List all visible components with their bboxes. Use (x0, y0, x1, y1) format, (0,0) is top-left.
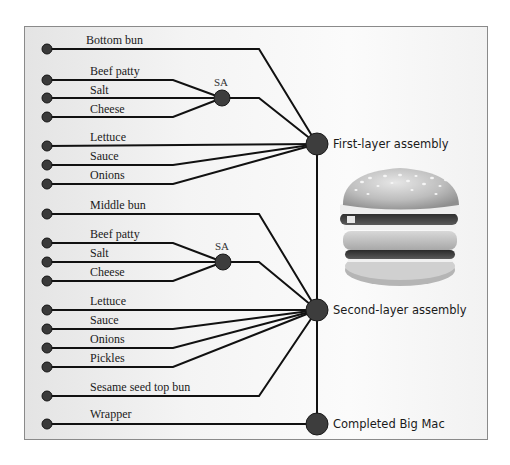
label-completed-big-mac: Completed Big Mac (333, 417, 445, 431)
label-beef-patty-1: Beef patty (90, 64, 140, 78)
label-pickles: Pickles (90, 351, 125, 365)
label-sesame-top-bun: Sesame seed top bun (90, 380, 190, 394)
input-dot-onions-1 (42, 179, 52, 189)
input-dot-sesame-top-bun (42, 391, 52, 401)
wire-beef-patty-2 (47, 243, 223, 262)
input-dot-pickles (42, 362, 52, 372)
input-dots (42, 44, 52, 429)
label-second-layer-assembly: Second-layer assembly (333, 303, 467, 317)
first-layer-wires (47, 49, 317, 184)
input-dot-lettuce-2 (42, 305, 52, 315)
input-dot-lettuce-1 (42, 141, 52, 151)
wire-cheese-2 (47, 262, 223, 281)
label-beef-patty-2: Beef patty (90, 227, 140, 241)
big-mac-burger-illustration (340, 168, 460, 286)
completed-big-mac-node (306, 413, 328, 435)
input-dot-middle-bun (42, 209, 52, 219)
label-lettuce-2: Lettuce (90, 294, 126, 308)
label-bottom-bun: Bottom bun (86, 33, 143, 47)
label-onions-1: Onions (90, 168, 125, 182)
label-lettuce-1: Lettuce (90, 130, 126, 144)
wire-cheese-1 (47, 98, 222, 117)
label-sa-1: SA (214, 76, 228, 88)
assembly-diagram: Bottom bun Beef patty Salt Cheese SA Let… (0, 0, 510, 465)
input-dot-onions-2 (42, 343, 52, 353)
wire-beef-patty-1 (47, 80, 222, 98)
wire-bottom-bun (47, 49, 317, 144)
input-dot-salt-2 (42, 257, 52, 267)
label-sa-2: SA (215, 240, 229, 252)
input-dot-wrapper (42, 419, 52, 429)
input-dot-bottom-bun (42, 44, 52, 54)
wire-pickles (47, 310, 317, 367)
input-dot-beef-patty-2 (42, 238, 52, 248)
label-first-layer-assembly: First-layer assembly (333, 137, 449, 151)
label-cheese-1: Cheese (90, 102, 125, 116)
first-layer-assembly-node (306, 133, 328, 155)
label-middle-bun: Middle bun (90, 198, 146, 212)
subassembly-node-1 (214, 90, 230, 106)
input-dot-sauce-2 (42, 324, 52, 334)
label-salt-2: Salt (90, 246, 109, 260)
label-sauce-2: Sauce (90, 313, 119, 327)
label-wrapper: Wrapper (90, 407, 132, 421)
label-cheese-2: Cheese (90, 265, 125, 279)
input-dot-sauce-1 (42, 160, 52, 170)
label-onions-2: Onions (90, 332, 125, 346)
label-sauce-1: Sauce (90, 149, 119, 163)
second-layer-assembly-node (306, 299, 328, 321)
label-salt-1: Salt (90, 83, 109, 97)
input-dot-cheese-2 (42, 276, 52, 286)
input-dot-cheese-1 (42, 112, 52, 122)
wire-lettuce-1 (47, 144, 317, 146)
subassembly-node-2 (215, 254, 231, 270)
input-dot-beef-patty-1 (42, 75, 52, 85)
input-dot-salt-1 (42, 93, 52, 103)
